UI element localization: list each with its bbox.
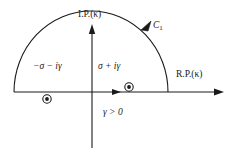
contour-integration-figure: I.P.(κ) R.P.(κ) C1 −σ − iγ σ + iγ γ > 0 — [0, 0, 228, 148]
contour-arc-c1 — [14, 11, 168, 92]
imaginary-axis-label: I.P.(κ) — [78, 10, 101, 20]
pole-label-left: −σ − iγ — [33, 62, 62, 72]
real-axis-direction-arrowhead-icon — [112, 89, 121, 95]
pole-marker-right — [125, 83, 133, 91]
contour-label-c1: C1 — [153, 21, 163, 32]
pole-label-right: σ + iγ — [98, 62, 120, 72]
real-axis-label: R.P.(κ) — [176, 70, 202, 80]
contour-direction-arrowhead-icon — [141, 21, 151, 31]
contour-label-subscript: 1 — [159, 24, 163, 32]
condition-label: γ > 0 — [103, 108, 123, 118]
pole-marker-left — [43, 95, 51, 103]
real-axis-arrowhead-icon — [214, 89, 224, 96]
imaginary-axis-arrowhead-icon — [89, 24, 95, 34]
